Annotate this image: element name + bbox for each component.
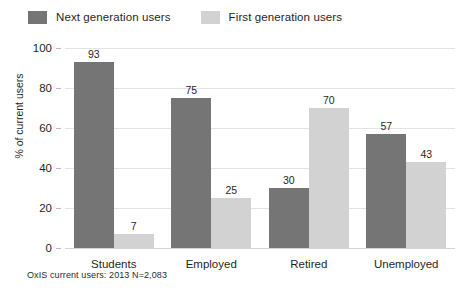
bar[interactable]: [269, 188, 309, 248]
bar-column: 30: [269, 48, 309, 248]
x-axis-labels: StudentsEmployedRetiredUnemployed: [65, 258, 455, 270]
bar[interactable]: [211, 198, 251, 248]
bar-chart: % of current users 020406080100 93775253…: [0, 34, 469, 256]
bar-groups: 937752530705743: [65, 48, 455, 248]
bar-group: 5743: [358, 48, 456, 248]
chart-footnote: OxIS current users: 2013 N=2,083: [27, 270, 167, 280]
bar-group: 937: [65, 48, 163, 248]
y-axis-tick-label: 80: [39, 82, 52, 94]
bar-column: 25: [211, 48, 251, 248]
y-axis-tick-mark: [56, 88, 61, 89]
y-axis-tick-label: 60: [39, 122, 52, 134]
x-axis-label: Retired: [260, 258, 358, 270]
bar-column: 43: [406, 48, 446, 248]
legend-item-next-generation-users: Next generation users: [28, 11, 171, 24]
x-axis-label: Employed: [163, 258, 261, 270]
y-axis-ticks: 020406080100: [0, 48, 65, 248]
bar-column: 93: [74, 48, 114, 248]
y-axis-tick-mark: [56, 48, 61, 49]
bar-column: 7: [114, 48, 154, 248]
y-axis-tick-mark: [56, 208, 61, 209]
y-axis-tick-mark: [56, 168, 61, 169]
bar-column: 75: [171, 48, 211, 248]
y-axis-tick-mark: [56, 128, 61, 129]
legend-label: First generation users: [229, 11, 342, 23]
legend-item-first-generation-users: First generation users: [201, 11, 342, 24]
legend-swatch-icon: [28, 11, 47, 24]
bar-column: 70: [309, 48, 349, 248]
bar[interactable]: [171, 98, 211, 248]
bar-group: 7525: [163, 48, 261, 248]
legend-swatch-icon: [201, 11, 220, 24]
bar-value-label: 93: [74, 49, 114, 60]
bar[interactable]: [309, 108, 349, 248]
bar[interactable]: [406, 162, 446, 248]
bar[interactable]: [114, 234, 154, 248]
y-axis-tick-label: 0: [46, 242, 52, 254]
bar-value-label: 30: [269, 175, 309, 186]
bar-column: 57: [366, 48, 406, 248]
x-axis-label: Students: [65, 258, 163, 270]
gridline: [65, 248, 455, 249]
bar-value-label: 43: [406, 149, 446, 160]
bar[interactable]: [74, 62, 114, 248]
bar-group: 3070: [260, 48, 358, 248]
bar-value-label: 7: [114, 221, 154, 232]
bar-value-label: 70: [309, 95, 349, 106]
bar-value-label: 25: [211, 185, 251, 196]
y-axis-tick-label: 40: [39, 162, 52, 174]
legend-label: Next generation users: [56, 11, 171, 23]
y-axis-tick-mark: [56, 248, 61, 249]
y-axis-tick-label: 100: [33, 42, 52, 54]
chart-legend: Next generation users First generation u…: [28, 6, 342, 28]
bar-value-label: 75: [171, 85, 211, 96]
y-axis-tick-label: 20: [39, 202, 52, 214]
bar[interactable]: [366, 134, 406, 248]
bar-value-label: 57: [366, 121, 406, 132]
x-axis-label: Unemployed: [358, 258, 456, 270]
